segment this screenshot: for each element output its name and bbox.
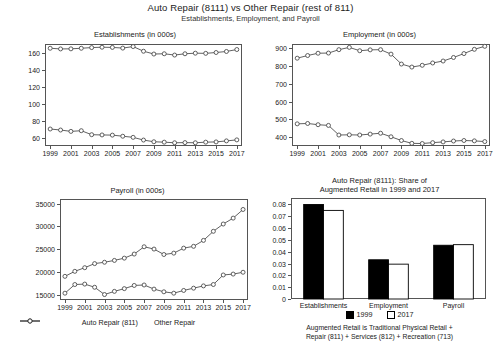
y-axis-tick [289,48,292,49]
data-point [410,65,414,69]
x-axis-label: 2009 [146,150,162,157]
x-axis-label: 2005 [352,150,368,157]
data-point [121,134,125,138]
x-axis-tick [464,146,465,149]
figure-canvas: Auto Repair (8111) vs Other Repair (rest… [0,0,501,353]
y-axis-tick [288,299,291,300]
data-point [326,51,330,55]
data-point [201,238,205,242]
line-series-1 [48,127,239,145]
data-point [172,291,176,295]
y-axis-label: 80 [20,117,40,124]
data-point [368,48,372,52]
data-point [441,140,445,144]
x-axis-tick [144,300,145,303]
y-axis-tick [42,104,45,105]
legend-item-1999: 1999 [346,310,373,319]
y-axis-label: 0.02 [262,272,286,279]
data-point [211,229,215,233]
data-point [69,47,73,51]
y-axis-label: 25000 [20,246,55,253]
data-point [347,133,351,137]
data-point [162,140,166,144]
x-axis-tick [65,300,66,303]
data-point [316,123,320,127]
data-point [231,216,235,220]
data-point [90,133,94,137]
y-axis-tick [57,295,60,296]
x-axis-category-label: Establishments [300,302,347,309]
legend-item-other-repair: Other Repair [152,318,195,327]
data-point [59,47,63,51]
data-point [452,55,456,59]
y-axis-tick [42,70,45,71]
bar-employment-1999 [369,260,389,299]
y-axis-tick [42,87,45,88]
x-axis-tick [223,300,224,303]
x-axis-label: 2007 [125,150,141,157]
y-axis-label: 0.08 [262,201,286,208]
data-point [142,283,146,287]
series-payroll [20,186,255,336]
data-point [483,140,487,144]
y-axis-tick [289,119,292,120]
line-series-0 [295,44,487,69]
series-establishments [20,30,250,170]
y-axis-label: 60 [20,134,40,141]
data-point [326,123,330,127]
x-axis-label: 2005 [105,150,121,157]
data-point [182,246,186,250]
x-axis-label: 2017 [235,304,251,311]
data-point [162,52,166,56]
bar-employment-2017 [389,264,409,299]
data-point [83,282,87,286]
data-point [59,128,63,132]
x-axis-category-label: Employment [369,302,408,309]
data-point [192,244,196,248]
legend-swatch-1999 [346,311,354,319]
x-axis-label: 2013 [435,150,451,157]
y-axis-tick [288,252,291,253]
data-point [112,258,116,262]
y-axis-label: 140 [20,66,40,73]
x-axis-label: 2003 [331,150,347,157]
data-point [295,122,299,126]
data-point [211,283,215,287]
y-axis-tick [42,53,45,54]
x-axis-tick [175,146,176,149]
y-axis-label: 15000 [20,291,55,298]
y-axis-tick [288,228,291,229]
line-series-0 [48,45,239,58]
data-point [173,141,177,145]
y-axis-tick [57,226,60,227]
data-point [389,135,393,139]
x-axis-tick [297,146,298,149]
x-axis-tick [443,146,444,149]
y-axis-tick [288,264,291,265]
legend-item-2017: 2017 [387,310,414,319]
y-axis-label: 0.01 [262,284,286,291]
y-axis-label: 0 [262,296,286,303]
data-point [162,290,166,294]
data-point [420,63,424,67]
y-axis-label: 800 [262,63,287,70]
data-point [121,46,125,50]
data-point [73,269,77,273]
x-axis-tick [203,300,204,303]
data-point [132,252,136,256]
data-point [241,270,245,274]
panel-share: Auto Repair (8111): Share of Augmented R… [262,176,497,353]
data-point [100,133,104,137]
data-point [182,288,186,292]
data-point [63,291,67,295]
data-point [214,51,218,55]
figure-subtitle: Establishments, Employment, and Payroll [0,14,501,23]
data-point [347,45,351,49]
y-axis-tick [42,138,45,139]
x-axis-tick [92,146,93,149]
x-axis-tick [360,146,361,149]
data-point [172,251,176,255]
data-point [389,52,393,56]
data-point [462,52,466,56]
data-point [316,51,320,55]
